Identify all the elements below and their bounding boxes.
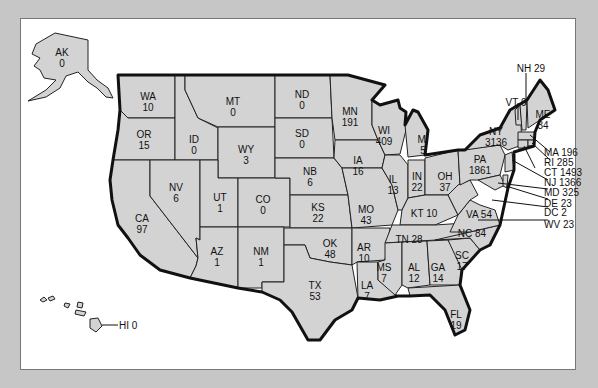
label-ak: AK0	[55, 47, 68, 69]
label-sd: SD0	[295, 128, 309, 150]
label-fl: FL19	[450, 309, 462, 331]
label-wy: WY3	[238, 144, 254, 166]
label-va: VA 54	[466, 209, 492, 220]
label-al: AL12	[408, 262, 420, 284]
label-sc: SC17	[455, 250, 469, 272]
label-in: IN22	[411, 171, 422, 193]
label-nd: ND0	[295, 89, 309, 111]
label-co: CO0	[256, 194, 271, 216]
label-pa: PA1861	[469, 154, 491, 176]
label-wa: WA10	[140, 91, 156, 113]
label-mo: MO43	[358, 204, 374, 226]
label-or: OR15	[137, 129, 152, 151]
label-ar: AR10	[357, 242, 371, 264]
state-ma[interactable]	[518, 132, 535, 140]
label-wv: WV 23	[544, 219, 574, 230]
label-mi: MI5	[417, 134, 428, 156]
label-id: ID0	[189, 134, 199, 156]
label-kt: KT 10	[411, 208, 438, 219]
label-vt: VT 9	[506, 97, 527, 108]
label-md: MD 325	[544, 187, 579, 198]
label-dc: DC 2	[544, 207, 567, 218]
label-nc: NC 84	[458, 228, 486, 239]
us-map	[0, 0, 598, 388]
label-tn: TN 28	[395, 234, 422, 245]
label-mt: MT0	[226, 96, 240, 118]
label-ks: KS22	[311, 202, 324, 224]
label-il: IL13	[387, 174, 398, 196]
label-hi: HI 0	[119, 320, 137, 331]
label-oh: OH37	[438, 171, 453, 193]
label-nm: NM1	[253, 246, 269, 268]
label-wi: WI409	[376, 125, 393, 147]
state-hi[interactable]	[40, 296, 102, 332]
label-me: ME34	[536, 109, 551, 131]
label-ga: GA14	[431, 262, 445, 284]
label-ny: NY3136	[485, 126, 507, 148]
label-la: LA7	[361, 280, 373, 302]
label-nb: NB6	[303, 166, 317, 188]
label-ut: UT1	[213, 192, 226, 214]
label-ok: OK48	[323, 238, 337, 260]
label-ia: IA16	[352, 155, 363, 177]
label-az: AZ1	[211, 246, 224, 268]
label-nv: NV6	[169, 182, 183, 204]
label-ca: CA97	[135, 213, 149, 235]
label-mn: MN191	[342, 106, 359, 128]
label-nh: NH 29	[517, 63, 545, 74]
label-ms: MS7	[377, 262, 392, 284]
state-ak[interactable]	[28, 33, 113, 101]
label-tx: TX53	[309, 280, 322, 302]
